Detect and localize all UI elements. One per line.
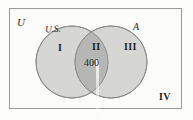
venn-diagram-figure: U U.S. A I II III IV 400: [0, 0, 193, 120]
region-numeral-right-only: III: [124, 42, 137, 52]
region-numeral-outside: IV: [159, 92, 171, 102]
region-numeral-intersection: II: [92, 42, 100, 52]
universe-label: U: [17, 17, 25, 28]
region-numeral-left-only: I: [58, 43, 62, 53]
set-label-left: U.S.: [45, 25, 61, 35]
intersection-count-value: 400: [84, 58, 99, 68]
set-label-right: A: [133, 22, 139, 32]
